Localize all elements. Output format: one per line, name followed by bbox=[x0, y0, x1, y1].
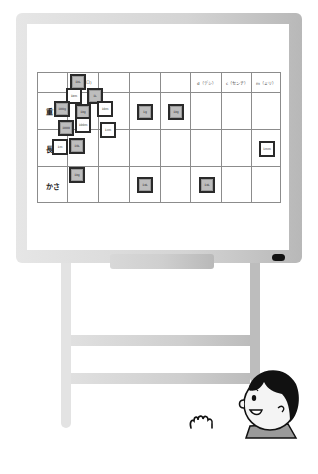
unit-card[interactable]: 1kg bbox=[168, 104, 184, 120]
unit-card-label: 1dL bbox=[202, 180, 212, 190]
row-label-volume: かさ bbox=[46, 181, 60, 191]
unit-card-label: 1kg bbox=[78, 107, 88, 117]
unit-card[interactable]: 1dL bbox=[199, 177, 215, 193]
header-centi: c（センチ） bbox=[226, 80, 248, 86]
unit-card[interactable]: 1m bbox=[52, 139, 68, 155]
unit-card-label: 1000 bbox=[61, 123, 71, 133]
unit-card-label: 1m bbox=[55, 142, 65, 152]
easel-leg-left bbox=[61, 263, 71, 428]
unit-card[interactable]: 10m bbox=[97, 101, 113, 117]
unit-card-label: 100m bbox=[78, 120, 88, 130]
easel-crossbar-lower bbox=[71, 373, 250, 384]
hand-icon bbox=[188, 410, 220, 430]
unit-card-label: 1kg bbox=[171, 107, 181, 117]
unit-card-label: 1kg bbox=[72, 170, 82, 180]
marker-icon[interactable] bbox=[272, 254, 285, 261]
unit-card-label: 1km bbox=[69, 91, 79, 101]
unit-card-label: 1L bbox=[90, 91, 100, 101]
unit-card[interactable]: 1mm bbox=[259, 141, 275, 157]
unit-card[interactable]: 100g bbox=[54, 101, 70, 117]
unit-card-label: 10L bbox=[72, 141, 82, 151]
header-milli: m（ミリ） bbox=[256, 80, 276, 86]
unit-card[interactable]: 1kg bbox=[69, 167, 85, 183]
boy-character-icon bbox=[230, 360, 310, 440]
unit-card[interactable]: 10L bbox=[69, 138, 85, 154]
unit-card-label: 1mm bbox=[262, 144, 272, 154]
easel-crossbar-upper bbox=[71, 335, 250, 346]
unit-card[interactable]: 1cm bbox=[100, 122, 116, 138]
marker-tray bbox=[110, 254, 214, 269]
grid-line bbox=[37, 72, 281, 73]
unit-card-label: 1cm bbox=[103, 125, 113, 135]
unit-card[interactable]: 100m bbox=[75, 117, 91, 133]
header-fragment: ロ) bbox=[86, 79, 92, 85]
header-deci: d（デシ） bbox=[197, 80, 216, 86]
grid-line bbox=[37, 202, 281, 203]
unit-card-label: 1dL bbox=[140, 180, 150, 190]
unit-card-label: 1g bbox=[140, 107, 150, 117]
unit-card-label: 100g bbox=[57, 104, 67, 114]
unit-card-label: 10m bbox=[100, 104, 110, 114]
unit-card[interactable]: 1000 bbox=[58, 120, 74, 136]
unit-card[interactable]: 1g bbox=[137, 104, 153, 120]
unit-card-label: 1kL bbox=[73, 77, 83, 87]
unit-card[interactable]: 1dL bbox=[137, 177, 153, 193]
